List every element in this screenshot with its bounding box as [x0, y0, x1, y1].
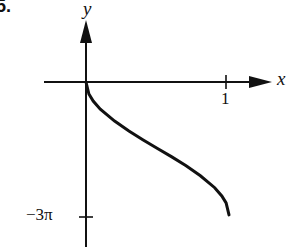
x-axis-arrow-icon: [249, 76, 272, 88]
data-curve: [86, 82, 229, 215]
x-axis-label: x: [277, 68, 285, 90]
figure: 5. y x 1 −3π: [0, 0, 299, 247]
y-axis-arrow-icon: [80, 20, 92, 43]
y-tick-label: −3π: [26, 205, 53, 225]
y-axis-label: y: [83, 0, 91, 20]
x-tick-label: 1: [221, 89, 230, 109]
